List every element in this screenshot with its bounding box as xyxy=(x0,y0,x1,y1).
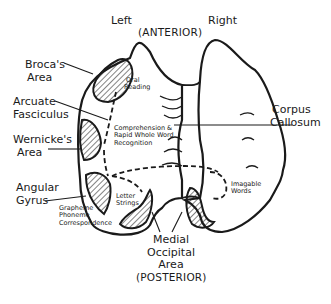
right-label: Right xyxy=(208,15,237,28)
imagable-words-label: Imagable Words xyxy=(231,181,261,196)
arcuate-fasciculus-label: Arcuate Fasciculus xyxy=(13,96,69,121)
wernicke-area-shape xyxy=(80,120,101,160)
oral-reading-label: Oral Reading xyxy=(124,77,150,92)
wernicke-label: Wernicke's Area xyxy=(13,134,72,159)
anterior-label: (ANTERIOR) xyxy=(138,26,202,38)
corpus-callosum-label: Corpus Callosum xyxy=(270,104,321,129)
medial-occipital-label: Medial Occipital Area xyxy=(147,234,195,272)
letter-strings-label: Letter Strings xyxy=(116,193,139,208)
callosal-fibers xyxy=(160,96,258,168)
comprehension-label: Comprehension & Rapid Whole Word Recogni… xyxy=(114,125,174,147)
grapheme-phoneme-label: Grapheme Phoneme Correspondence xyxy=(59,205,112,227)
left-label: Left xyxy=(111,15,132,28)
posterior-label: (POSTERIOR) xyxy=(136,271,207,283)
broca-label: Broca's Area xyxy=(25,59,65,84)
corpus-callosum-band xyxy=(182,82,200,198)
angular-gyrus-label: Angular Gyrus xyxy=(16,182,59,207)
